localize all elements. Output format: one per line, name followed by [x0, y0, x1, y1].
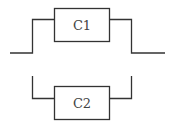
component-c2: C2: [55, 87, 110, 120]
lower-left-wire: [33, 76, 55, 99]
c2-label: C2: [73, 96, 91, 111]
left-input-wire: [10, 20, 54, 54]
right-output-wire: [109, 20, 165, 54]
c1-label: C1: [73, 18, 91, 33]
circuit-diagram: C1 C2: [0, 0, 173, 127]
lower-right-wire: [109, 76, 132, 99]
component-c1: C1: [55, 9, 110, 42]
